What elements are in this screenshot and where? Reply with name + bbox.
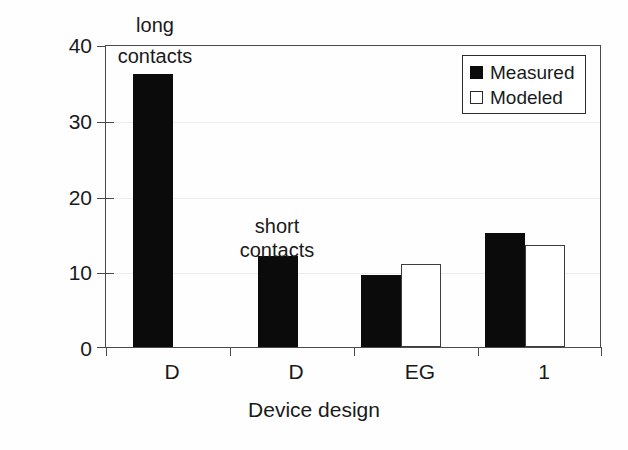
legend-item-measured[interactable]: Measured [470,60,579,85]
bar-measured-0 [133,74,173,347]
annotation-long-line2: contacts [100,45,210,68]
y-tick-20 [97,198,106,199]
bar-modeled-3 [525,245,565,347]
x-tick-label-0: D [112,360,232,384]
y-tick-10 [97,273,106,274]
y-tick-0 [97,347,106,348]
hollow-square-icon [470,91,483,104]
bar-measured-1 [258,256,298,347]
y-tick-label-20: 20 [52,187,92,208]
legend-item-modeled[interactable]: Modeled [470,85,579,110]
x-tick-label-3: 1 [484,360,604,384]
y-tick-label-30: 30 [52,111,92,132]
y-tick-label-10: 10 [52,262,92,283]
y-tick-label-0: 0 [52,338,92,359]
y-tick-label-40: 40 [52,35,92,56]
bar-chart-figure: long contacts short contacts Transmissio… [0,0,628,450]
chart-legend: Measured Modeled [462,55,586,114]
bar-modeled-2 [401,264,441,347]
annotation-long-line1: long [110,14,200,37]
x-tick-4 [601,347,602,356]
y-tick-30 [97,122,106,123]
gridline-30 [106,122,600,123]
legend-label-measured: Measured [490,63,575,82]
bar-measured-3 [485,233,525,347]
y-tick-inner-30 [106,122,114,123]
x-tick-2 [354,347,355,356]
x-tick-1 [230,347,231,356]
gridline-20 [106,198,600,199]
annotation-short-line1: short [232,215,322,238]
y-tick-inner-10 [106,273,114,274]
x-axis-title: Device design [0,398,628,422]
bar-measured-2 [361,275,401,347]
filled-square-icon [470,66,483,79]
x-tick-0 [106,347,107,356]
legend-label-modeled: Modeled [490,88,563,107]
x-tick-3 [478,347,479,356]
annotation-short-line2: contacts [222,239,332,262]
x-tick-label-1: D [236,360,356,384]
x-tick-label-2: EG [360,360,480,384]
y-tick-inner-20 [106,198,114,199]
